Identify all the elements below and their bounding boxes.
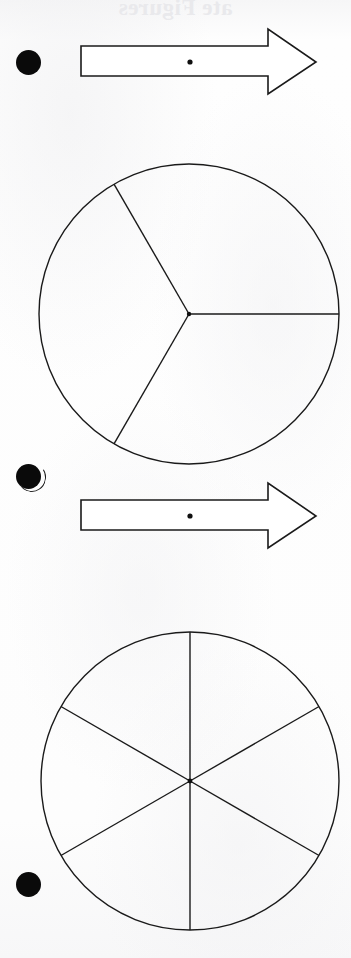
circle-sixths-radius-1 [190,707,319,782]
arrow-2-outline [81,483,316,548]
arrow-1 [0,0,351,120]
circle-sixths-radius-3 [61,707,190,782]
bullet-3 [16,872,41,897]
worksheet-page: ate Figures [0,0,351,958]
arrow-2-center-dot [187,513,192,518]
circle-thirds-center-dot [187,312,191,316]
circle-sixths-figure [0,618,351,958]
circle-thirds-radius-3 [114,314,189,444]
circle-sixths-radius-4 [61,781,190,856]
arrow-1-center-dot [187,59,192,64]
circle-sixths-radius-6 [190,781,319,856]
circle-thirds-figure [0,145,351,485]
arrow-1-outline [81,29,316,94]
circle-thirds-radius-2 [114,184,189,314]
arrow-2 [0,470,351,590]
circle-sixths-center-dot [188,779,193,784]
circle-thirds-radii [114,184,339,444]
